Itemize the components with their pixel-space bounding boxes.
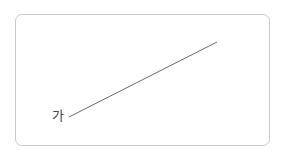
point-label: 가 [52, 108, 64, 124]
diagram-line-layer [0, 0, 283, 158]
diagonal-line [69, 42, 217, 117]
